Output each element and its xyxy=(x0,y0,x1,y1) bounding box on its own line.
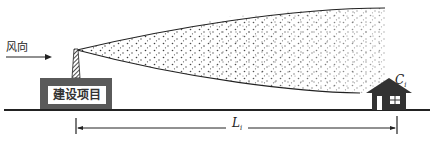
building-label: 建设项目 xyxy=(48,86,106,104)
receptor-subscript: i xyxy=(404,81,406,89)
distance-label: Li xyxy=(226,116,248,132)
receptor-symbol: C xyxy=(395,73,404,87)
wind-direction-label: 风向 xyxy=(6,38,28,54)
distance-subscript: i xyxy=(240,124,242,132)
chimney xyxy=(72,49,80,78)
distance-symbol: L xyxy=(232,116,240,130)
pollution-dispersion-diagram: 风向 建设项目 Ci Li xyxy=(0,0,434,145)
smoke-plume xyxy=(77,8,385,93)
diagram-graphics xyxy=(0,0,434,145)
receptor-label: Ci xyxy=(395,73,406,89)
wind-direction-arrow xyxy=(6,54,52,60)
